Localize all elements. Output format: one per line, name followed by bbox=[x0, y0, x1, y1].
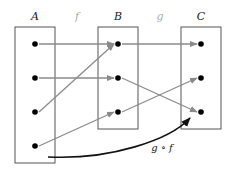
function-label-g: g bbox=[156, 10, 163, 23]
set-label-b: B bbox=[113, 10, 122, 23]
set-box-a bbox=[15, 27, 55, 163]
set-label-c: C bbox=[197, 10, 206, 23]
function-composition-diagram: A B C f g g ∘ f bbox=[0, 0, 236, 174]
element-point-b1 bbox=[115, 41, 121, 47]
element-point-c2 bbox=[198, 75, 204, 81]
element-point-a2 bbox=[32, 75, 38, 81]
composite-label: g ∘ f bbox=[151, 142, 175, 153]
element-point-b3 bbox=[115, 109, 121, 115]
element-point-a3 bbox=[32, 109, 38, 115]
element-point-a4 bbox=[32, 143, 38, 149]
set-label-a: A bbox=[30, 10, 39, 23]
element-point-c1 bbox=[198, 41, 204, 47]
element-point-c3 bbox=[198, 109, 204, 115]
function-label-f: f bbox=[74, 10, 81, 23]
element-point-a1 bbox=[32, 41, 38, 47]
element-point-b2 bbox=[115, 75, 121, 81]
